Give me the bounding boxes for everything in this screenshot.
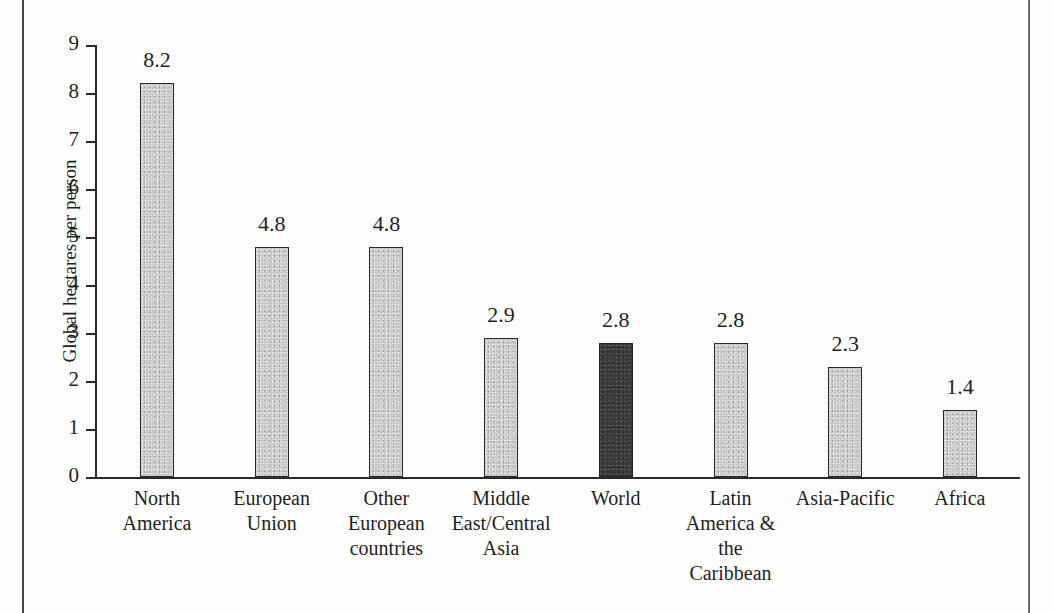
x-category-label: MiddleEast/CentralAsia bbox=[440, 486, 562, 561]
y-tick-mark bbox=[86, 45, 95, 47]
y-tick-mark bbox=[86, 381, 95, 383]
x-category-label-line: America & bbox=[670, 511, 792, 536]
x-category-label-line: the bbox=[670, 536, 792, 561]
bar-value-label: 2.3 bbox=[788, 333, 902, 355]
y-tick-label: 6 bbox=[57, 177, 79, 198]
bar-value-label: 4.8 bbox=[329, 213, 443, 235]
x-category-label-line: Latin bbox=[670, 486, 792, 511]
x-category-label-line: World bbox=[555, 486, 677, 511]
y-tick-mark bbox=[86, 189, 95, 191]
bar[interactable] bbox=[255, 247, 289, 477]
y-tick-label: 0 bbox=[57, 465, 79, 486]
x-axis-line bbox=[95, 477, 1020, 479]
x-category-label-line: European bbox=[211, 486, 333, 511]
y-tick-label: 4 bbox=[57, 273, 79, 294]
x-category-label: EuropeanUnion bbox=[211, 486, 333, 536]
bar[interactable] bbox=[369, 247, 403, 477]
x-category-label: NorthAmerica bbox=[96, 486, 218, 536]
x-category-label: World bbox=[555, 486, 677, 511]
y-axis-line bbox=[95, 45, 97, 479]
x-category-label-line: Other bbox=[325, 486, 447, 511]
x-category-label-line: European bbox=[325, 511, 447, 536]
bar[interactable] bbox=[714, 343, 748, 477]
y-tick-mark bbox=[86, 237, 95, 239]
x-category-label: Asia-Pacific bbox=[784, 486, 906, 511]
x-category-label-line: Caribbean bbox=[670, 561, 792, 586]
bar[interactable] bbox=[140, 83, 174, 477]
bar-value-label: 4.8 bbox=[215, 213, 329, 235]
x-category-label-line: East/Central bbox=[440, 511, 562, 536]
x-category-label-line: countries bbox=[325, 536, 447, 561]
y-axis-title: Global hectares per person bbox=[59, 131, 81, 391]
bar-value-label: 2.8 bbox=[559, 309, 673, 331]
y-tick-mark bbox=[86, 285, 95, 287]
bar[interactable] bbox=[484, 338, 518, 477]
x-category-label-line: North bbox=[96, 486, 218, 511]
y-tick-label: 5 bbox=[57, 225, 79, 246]
bar-value-label: 8.2 bbox=[100, 49, 214, 71]
bar[interactable] bbox=[599, 343, 633, 477]
bar[interactable] bbox=[943, 410, 977, 477]
bar-chart: Global hectares per person 0123456789 8.… bbox=[0, 0, 1054, 613]
y-tick-mark bbox=[86, 477, 95, 479]
y-tick-label: 2 bbox=[57, 369, 79, 390]
y-tick-mark bbox=[86, 333, 95, 335]
bar-value-label: 2.9 bbox=[444, 304, 558, 326]
bar-value-label: 1.4 bbox=[903, 376, 1017, 398]
bar[interactable] bbox=[828, 367, 862, 477]
x-category-label-line: Union bbox=[211, 511, 333, 536]
x-category-label-line: America bbox=[96, 511, 218, 536]
x-category-label-line: Africa bbox=[899, 486, 1021, 511]
y-tick-mark bbox=[86, 141, 95, 143]
y-tick-label: 8 bbox=[57, 81, 79, 102]
bar-value-label: 2.8 bbox=[674, 309, 788, 331]
x-category-label: OtherEuropeancountries bbox=[325, 486, 447, 561]
x-category-label-line: Asia bbox=[440, 536, 562, 561]
page-canvas: Global hectares per person 0123456789 8.… bbox=[0, 0, 1054, 613]
y-tick-label: 3 bbox=[57, 321, 79, 342]
y-tick-mark bbox=[86, 429, 95, 431]
y-tick-mark bbox=[86, 93, 95, 95]
x-category-label: LatinAmerica &theCaribbean bbox=[670, 486, 792, 586]
y-tick-label: 7 bbox=[57, 129, 79, 150]
y-tick-label: 1 bbox=[57, 417, 79, 438]
y-tick-label: 9 bbox=[57, 33, 79, 54]
x-category-label-line: Asia-Pacific bbox=[784, 486, 906, 511]
x-category-label: Africa bbox=[899, 486, 1021, 511]
x-category-label-line: Middle bbox=[440, 486, 562, 511]
